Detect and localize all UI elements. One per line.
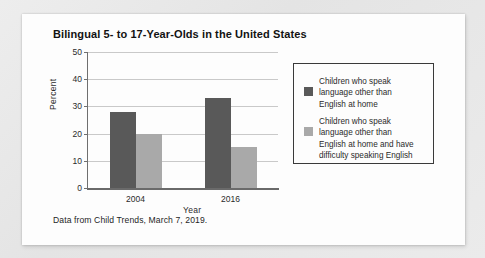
legend-label-line: English at home and have — [319, 139, 414, 150]
y-tick-mark — [84, 106, 88, 107]
y-tick-mark — [84, 52, 88, 53]
legend-item-series-b: Children who speaklanguage other thanEng… — [304, 116, 414, 162]
legend-item-series-a: Children who speaklanguage other thanEng… — [304, 76, 392, 110]
bar-2004-series-a — [110, 112, 136, 188]
legend-label-series-a: Children who speaklanguage other thanEng… — [319, 76, 392, 110]
y-tick-mark — [84, 79, 88, 80]
legend-label-line: difficulty speaking English — [319, 150, 414, 161]
plot-area: 01020304050 20042016 — [88, 52, 278, 188]
legend-label-line: Children who speak — [319, 76, 392, 87]
y-axis-line — [87, 52, 88, 189]
gridline — [88, 52, 278, 53]
y-tick-label: 30 — [73, 101, 82, 111]
chart-title: Bilingual 5- to 17-Year-Olds in the Unit… — [53, 28, 307, 40]
legend-label-line: language other than — [319, 127, 414, 138]
x-axis-line — [87, 188, 279, 190]
y-tick-label: 40 — [73, 74, 82, 84]
y-tick-label: 0 — [77, 183, 82, 193]
bar-2004-series-b — [136, 134, 162, 188]
legend-swatch-icon-series-a — [304, 87, 313, 96]
x-axis-title: Year — [183, 205, 201, 215]
x-tick-label: 2004 — [126, 194, 145, 204]
bar-2016-series-b — [231, 147, 257, 188]
y-tick-mark — [84, 134, 88, 135]
gridline — [88, 106, 278, 107]
bar-chart-figure: Bilingual 5- to 17-Year-Olds in the Unit… — [22, 14, 465, 245]
scanned-page-background: Bilingual 5- to 17-Year-Olds in the Unit… — [0, 0, 485, 258]
source-note: Data from Child Trends, March 7, 2019. — [53, 215, 207, 225]
y-tick-label: 20 — [73, 129, 82, 139]
x-tick-label: 2016 — [221, 194, 240, 204]
y-tick-label: 10 — [73, 156, 82, 166]
gridline — [88, 79, 278, 80]
figure-card: Bilingual 5- to 17-Year-Olds in the Unit… — [22, 14, 465, 245]
bar-2016-series-a — [205, 98, 231, 188]
chart-legend: Children who speaklanguage other thanEng… — [293, 63, 434, 164]
legend-swatch-icon-series-b — [304, 127, 313, 136]
y-tick-mark — [84, 188, 88, 189]
legend-label-line: language other than — [319, 87, 392, 98]
legend-label-line: Children who speak — [319, 116, 414, 127]
legend-label-series-b: Children who speaklanguage other thanEng… — [319, 116, 414, 162]
legend-label-line: English at home — [319, 99, 392, 110]
y-tick-label: 50 — [73, 47, 82, 57]
y-axis-title: Percent — [48, 79, 58, 110]
y-tick-mark — [84, 161, 88, 162]
